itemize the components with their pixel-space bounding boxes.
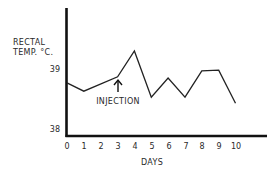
y-tick-38: 38	[50, 125, 60, 134]
injection-annotation: INJECTION	[96, 97, 140, 106]
y-axis-label-line1: RECTAL	[13, 38, 45, 47]
injection-arrow-icon	[114, 80, 122, 92]
x-tick-6: 6	[166, 142, 171, 151]
temperature-line	[67, 51, 236, 103]
x-ticks: 0 1 2 3 4 5 6 7 8 9 10	[64, 142, 241, 151]
x-tick-2: 2	[98, 142, 103, 151]
x-tick-9: 9	[216, 142, 221, 151]
x-tick-7: 7	[183, 142, 188, 151]
x-tick-5: 5	[149, 142, 154, 151]
x-tick-0: 0	[64, 142, 69, 151]
x-tick-1: 1	[81, 142, 86, 151]
x-tick-8: 8	[199, 142, 204, 151]
x-axis-label: DAYS	[141, 158, 163, 167]
temperature-chart: RECTAL TEMP. °C. 39 38 0 1 2 3 4 5 6 7 8…	[0, 0, 275, 172]
x-tick-10: 10	[231, 142, 241, 151]
x-tick-4: 4	[132, 142, 137, 151]
x-tick-3: 3	[115, 142, 120, 151]
y-tick-39: 39	[50, 65, 60, 74]
y-axis-label-line2: TEMP. °C.	[12, 48, 53, 57]
